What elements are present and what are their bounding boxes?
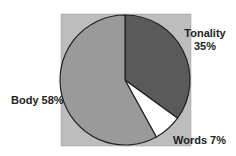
label-tonality-pct: 35%: [183, 40, 227, 53]
pie-chart: [0, 0, 236, 156]
label-tonality: Tonality 35%: [183, 27, 227, 53]
pie-slices: [60, 15, 190, 145]
label-words: Words 7%: [173, 134, 226, 147]
label-tonality-name: Tonality: [183, 27, 227, 40]
label-body: Body 58%: [11, 94, 64, 107]
